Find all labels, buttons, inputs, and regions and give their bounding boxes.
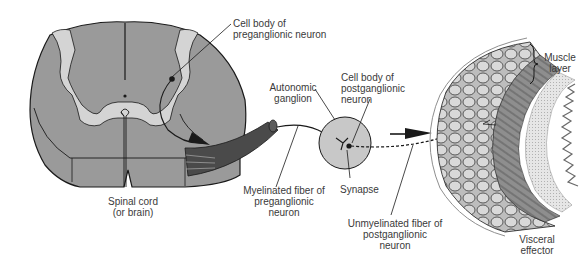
label-line: Visceral — [514, 234, 560, 245]
autonomic-ganglion — [319, 117, 371, 169]
label-muscle-layer: Muscle layer — [540, 52, 580, 74]
label-line: preganglionic neuron — [233, 29, 326, 40]
label-cell-body-postganglionic: Cell body of postganglionic neuron — [341, 72, 405, 105]
ganglion-circle — [319, 117, 371, 169]
label-line: preganglionic — [232, 196, 336, 207]
autonomic-pathway-diagram: Cell body of preganglionic neuron Autono… — [0, 0, 584, 259]
label-autonomic-ganglion: Autonomic ganglion — [260, 82, 326, 104]
label-line: Autonomic — [260, 82, 326, 93]
label-line: ganglion — [260, 93, 326, 104]
postganglionic-cell-body-dot — [346, 143, 351, 148]
label-cell-body-preganglionic: Cell body of preganglionic neuron — [233, 18, 326, 40]
label-line: neuron — [232, 207, 336, 218]
label-line: Synapse — [340, 184, 379, 195]
label-line: effector — [514, 245, 560, 256]
label-unmyelinated-fiber: Unmyelinated fiber of postganglionic neu… — [337, 218, 453, 251]
label-line: Muscle — [540, 52, 580, 63]
label-line: postganglionic — [341, 83, 405, 94]
label-spinal-cord: Spinal cord (or brain) — [95, 196, 171, 218]
label-line: neuron — [341, 94, 405, 105]
label-synapse: Synapse — [340, 184, 379, 195]
label-line: layer — [540, 63, 580, 74]
label-line: neuron — [337, 240, 453, 251]
nerve-cut-end — [269, 120, 277, 132]
label-line: Unmyelinated fiber of — [337, 218, 453, 229]
mucosal-folds — [562, 84, 578, 186]
direction-arrow-icon — [390, 128, 432, 139]
label-myelinated-fiber: Myelinated fiber of preganglionic neuron — [232, 185, 336, 218]
central-canal — [123, 94, 126, 97]
label-visceral-effector: Visceral effector — [514, 234, 560, 256]
label-line: postganglionic — [337, 229, 453, 240]
label-line: Myelinated fiber of — [232, 185, 336, 196]
leader-myelinated-fiber — [276, 126, 298, 187]
label-line: Cell body of — [341, 72, 405, 83]
label-line: Cell body of — [233, 18, 326, 29]
label-line: Spinal cord — [95, 196, 171, 207]
label-line: (or brain) — [95, 207, 171, 218]
leader-unmyelinated-fiber — [391, 145, 413, 215]
